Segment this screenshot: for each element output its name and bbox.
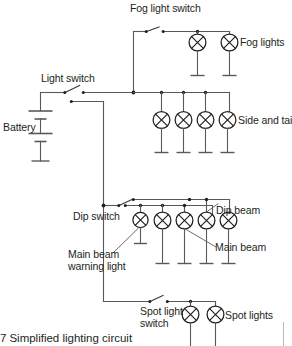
dip-beam-junction-1 [188,198,191,201]
battery-label: Battery [3,121,36,133]
headlamp-4-dip-beam [220,212,237,263]
circuit-schematic [0,0,292,346]
fog-branch-wiring [134,27,230,93]
main-beam-label: Main beam [215,241,266,253]
spot-lights-label: Spot lights [225,309,273,321]
light-switch-contact-lower [70,100,73,103]
light-switch-label: Light switch [41,72,95,84]
main-beam-leader [184,228,217,247]
fog-light-switch-label: Fog light switch [130,2,201,14]
dip-switch-pivot [117,204,120,207]
main-beam-warning-lamp [133,206,148,244]
figure-number: 7 [0,332,6,344]
headlamp-2-main-beam [176,206,193,264]
side-tail-lamp-4 [219,112,236,153]
main-beam-junction-2 [183,204,186,207]
dip-switch-contact-dip [132,198,135,201]
headlamp-feed-junction [102,204,106,208]
fog-lamp-1 [189,32,206,76]
light-switch-contact-upper [82,91,85,94]
spot-switch-contact [166,300,169,303]
fog-lights-label: Fog lights [240,36,285,48]
figure-caption: 7Simplified lighting circuit [0,332,292,344]
light-switch-pivot [63,91,66,94]
headlamp-1-main-beam [154,206,171,264]
lighting-circuit-figure: Fog light switch Fog lights Light switch… [0,0,292,346]
dip-beam-label: Dip beam [216,204,260,216]
light-switch-symbol [65,86,134,206]
side-and-tail-lights-label: Side and tail lights [238,114,292,126]
dip-beam-junction-2 [205,198,208,201]
fog-switch-contact [162,30,165,33]
side-tail-lamp-1 [153,93,170,153]
spot-switch-pivot [148,300,151,303]
fog-lamp-2 [221,32,238,76]
side-tail-bus [134,93,230,112]
dip-switch-contact-main [124,204,127,207]
side-tail-lamp-2 [175,93,192,153]
dip-switch-label: Dip switch [73,210,120,222]
page-rule [283,322,284,346]
fog-switch-pivot [145,30,148,33]
side-tail-lamp-3 [197,93,214,153]
figure-caption-text: Simplified lighting circuit [9,332,132,344]
spot-light-switch-label: Spot light switch [140,305,183,329]
main-beam-warning-light-label: Main beam warning light [68,248,126,272]
